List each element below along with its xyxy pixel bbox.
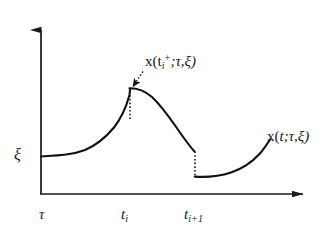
figure-canvas [0, 0, 331, 238]
solution-label-prefix: x( [267, 128, 280, 144]
impulsive-trajectory-figure: ξ τ ti ti+1 x(ti+;τ,ξ) x(t;τ,ξ) [0, 0, 331, 238]
trajectory-segment-1 [41, 90, 130, 157]
jump-label-suffix: ;τ,ξ) [170, 53, 196, 69]
x-tick-ti-subscript: i [125, 213, 128, 224]
solution-label-suffix: ;τ,ξ) [284, 128, 310, 144]
jump-label-prefix: x(t [145, 53, 162, 69]
jump-point-label: x(ti+;τ,ξ) [145, 53, 196, 71]
x-tick-label-ti: ti [121, 207, 128, 224]
trajectory-segment-3 [195, 140, 270, 177]
x-tick-tip1-subscript: i+1 [188, 213, 203, 224]
x-tick-label-ti-plus-1: ti+1 [184, 207, 203, 224]
solution-curve-label: x(t;τ,ξ) [267, 129, 309, 144]
x-tick-label-tau: τ [39, 207, 44, 222]
y-axis-value-label: ξ [14, 147, 21, 163]
jump-label-leader-line [133, 72, 143, 87]
trajectory-segment-2 [130, 88, 195, 151]
